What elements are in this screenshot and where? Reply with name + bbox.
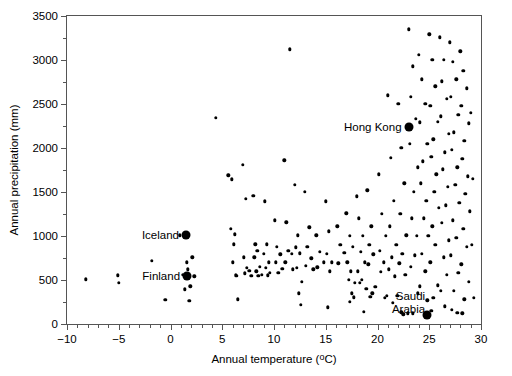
data-point xyxy=(236,298,239,301)
data-point xyxy=(459,49,462,52)
data-point xyxy=(305,245,308,248)
data-point xyxy=(326,306,329,309)
data-point xyxy=(420,252,423,255)
data-point xyxy=(279,253,282,256)
data-point xyxy=(324,200,327,203)
data-point xyxy=(445,273,448,276)
data-point xyxy=(260,273,263,276)
data-point xyxy=(467,280,470,283)
data-point xyxy=(290,252,293,255)
data-point xyxy=(351,245,354,248)
point-annotation-label: Iceland xyxy=(142,229,179,242)
data-point xyxy=(462,69,465,72)
y-axis-tick-label: 3000 xyxy=(32,54,58,66)
data-point xyxy=(420,78,423,81)
point-annotation-label: Finland xyxy=(142,270,180,283)
data-points-layer xyxy=(67,16,481,324)
data-point xyxy=(267,261,270,264)
data-point xyxy=(449,95,452,98)
data-point xyxy=(164,298,167,301)
data-point xyxy=(345,211,348,214)
data-point xyxy=(353,281,356,284)
data-point xyxy=(452,289,455,292)
data-point xyxy=(296,233,299,236)
data-point xyxy=(254,243,257,246)
data-point xyxy=(297,291,300,294)
data-point xyxy=(463,139,466,142)
x-axis-minor-tick xyxy=(440,324,441,328)
data-point xyxy=(427,234,430,237)
data-point xyxy=(343,251,346,254)
highlighted-data-point xyxy=(182,231,191,240)
data-point xyxy=(469,111,472,114)
data-point xyxy=(382,261,385,264)
x-axis-tick-label: −10 xyxy=(57,333,77,345)
x-axis-minor-tick xyxy=(88,324,89,328)
x-axis-tick xyxy=(481,324,482,330)
data-point xyxy=(230,178,233,181)
data-point xyxy=(316,266,319,269)
data-point xyxy=(364,287,367,290)
data-point xyxy=(463,298,466,301)
y-axis-tick xyxy=(61,280,67,281)
data-point xyxy=(410,217,413,220)
y-axis-tick xyxy=(61,192,67,193)
data-point xyxy=(471,177,474,180)
data-point xyxy=(387,268,390,271)
data-point xyxy=(416,166,419,169)
data-point xyxy=(186,268,189,271)
data-point xyxy=(461,312,464,315)
data-point xyxy=(400,146,403,149)
data-point xyxy=(447,239,450,242)
data-point xyxy=(445,97,448,100)
data-point xyxy=(241,163,244,166)
data-point xyxy=(432,137,435,140)
y-axis-tick xyxy=(61,236,67,237)
data-point xyxy=(252,194,255,197)
data-point xyxy=(247,269,250,272)
data-point xyxy=(191,255,194,258)
x-axis-tick-label: 25 xyxy=(423,333,436,345)
data-point xyxy=(430,155,433,158)
data-point xyxy=(454,78,457,81)
data-point xyxy=(460,262,463,265)
data-point xyxy=(462,227,465,230)
data-point xyxy=(263,200,266,203)
data-point xyxy=(300,280,303,283)
data-point xyxy=(438,35,441,38)
x-axis-minor-tick xyxy=(243,324,244,328)
data-point xyxy=(414,117,417,120)
data-point xyxy=(293,183,296,186)
data-point xyxy=(265,243,268,246)
y-axis-tick xyxy=(61,148,67,149)
data-point xyxy=(443,305,446,308)
data-point xyxy=(264,266,267,269)
y-axis-minor-tick xyxy=(63,38,67,39)
data-point xyxy=(435,173,438,176)
data-point xyxy=(298,251,301,254)
data-point xyxy=(423,102,426,105)
data-point xyxy=(418,284,421,287)
data-point xyxy=(466,174,469,177)
data-point xyxy=(458,201,461,204)
data-point xyxy=(378,249,381,252)
data-point xyxy=(250,274,253,277)
data-point xyxy=(253,255,256,258)
data-point xyxy=(452,130,455,133)
data-point xyxy=(339,243,342,246)
data-point xyxy=(464,192,467,195)
data-point xyxy=(335,225,338,228)
data-point xyxy=(295,266,298,269)
data-point xyxy=(358,281,361,284)
data-point xyxy=(389,156,392,159)
x-axis-minor-tick xyxy=(398,324,399,328)
data-point xyxy=(429,104,432,107)
data-point xyxy=(408,142,411,145)
x-axis-minor-tick xyxy=(305,324,306,328)
data-point xyxy=(447,132,450,135)
x-axis-tick xyxy=(119,324,120,330)
data-point xyxy=(266,273,269,276)
x-axis-minor-tick xyxy=(160,324,161,328)
data-point xyxy=(336,262,339,265)
y-axis-minor-tick xyxy=(63,170,67,171)
